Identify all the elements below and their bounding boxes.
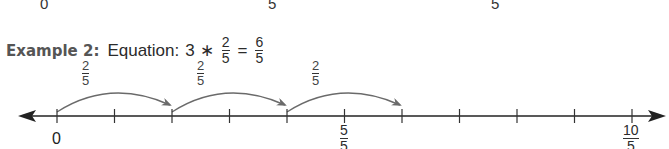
tick-10-numerator: 10 (623, 124, 639, 137)
jump-arc-1 (57, 93, 170, 112)
tick-label-10-5: 10 5 (623, 124, 639, 149)
jump-arc-3 (287, 93, 400, 112)
number-line-diagram (0, 0, 669, 149)
jump-arc-2 (172, 93, 285, 112)
tick-10-denominator: 5 (627, 140, 635, 149)
tick-5-numerator: 5 (340, 124, 348, 137)
tick-5-denominator: 5 (340, 140, 348, 149)
tick-label-5-5: 5 5 (340, 124, 348, 149)
tick-label-0: 0 (52, 130, 61, 148)
